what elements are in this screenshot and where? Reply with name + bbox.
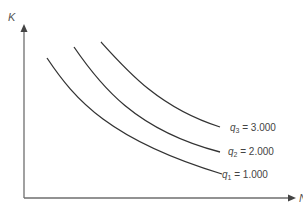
y-axis-label: K (8, 11, 16, 23)
label-q3: q3 = 3.000 (230, 122, 276, 134)
x-axis-arrow-icon (288, 195, 296, 202)
x-axis-label: N (299, 192, 303, 204)
label-q1: q1 = 1.000 (222, 169, 268, 181)
isoquant-diagram: K N q3 = 3.000 q2 = 2.000 q1 = 1.000 (0, 0, 303, 214)
isoquant-q3 (101, 42, 220, 127)
label-q2: q2 = 2.000 (228, 146, 274, 158)
isoquant-q1 (47, 58, 222, 174)
y-axis-arrow-icon (21, 24, 28, 32)
isoquant-q2 (74, 47, 220, 152)
